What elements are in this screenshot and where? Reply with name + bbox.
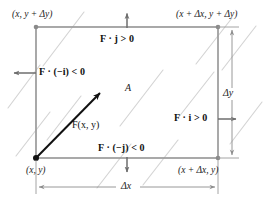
flow-line-group [8,12,262,188]
flow-line [222,26,256,70]
flow-line [143,140,178,185]
dimension-label-height: Δy [221,88,235,98]
flux-label-left: F · (−i) < 0 [39,67,85,77]
flow-line [43,12,84,66]
flux-label-top: F · j > 0 [100,34,134,44]
flow-line [196,18,232,64]
corner-dot-top-left [34,25,39,30]
field-vector-label: F(x, y) [72,120,99,130]
region-label: A [125,83,131,93]
flow-line [120,70,163,126]
corner-label-bottom-right: (x + Δx, y) [178,166,218,176]
vector-field-flux-diagram: (x, y + Δy) (x + Δx, y + Δy) (x, y) (x +… [0,0,265,201]
flow-line [230,102,262,144]
flux-label-bottom: F · (−j) < 0 [98,143,145,153]
corner-label-bottom-left: (x, y) [26,166,46,176]
flux-label-right: F · i > 0 [174,113,207,123]
corner-label-top-left: (x, y + Δy) [12,10,52,20]
dimension-label-width: Δx [119,181,133,191]
corner-label-top-right: (x + Δx, y + Δy) [176,10,237,20]
